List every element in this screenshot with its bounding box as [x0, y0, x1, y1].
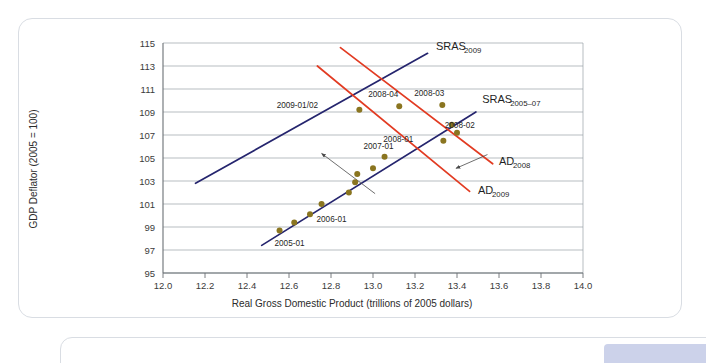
svg-text:12.6: 12.6 [280, 280, 299, 291]
curve-label-sras-2009: SRAS2009 [436, 40, 481, 55]
svg-text:111: 111 [141, 84, 155, 95]
data-point [396, 103, 402, 109]
svg-text:105: 105 [139, 153, 155, 164]
data-point [454, 130, 460, 136]
data-point-label: 2006-01 [317, 215, 347, 224]
data-point [352, 179, 358, 185]
data-point [356, 107, 362, 113]
curve-label-ad-2008: AD2008 [499, 155, 530, 170]
svg-text:12.0: 12.0 [154, 280, 173, 291]
data-point [382, 154, 388, 160]
curve-label-ad-2009: AD2009 [478, 184, 509, 199]
data-point [370, 165, 376, 171]
data-point [307, 211, 313, 217]
data-point [439, 102, 445, 108]
data-point-label: 2008-02 [445, 121, 475, 130]
svg-text:12.8: 12.8 [322, 280, 341, 291]
data-point [277, 227, 283, 233]
x-axis-tick-labels: 12.012.212.412.612.813.013.213.413.613.8… [154, 280, 593, 291]
data-point-label: 2009-01/02 [277, 101, 319, 110]
annotation-arrows [322, 153, 488, 193]
y-axis-title: GDP Deflator (2005 = 100) [28, 109, 39, 228]
figure-card: 959799101103105107109111113115 12.012.21… [18, 18, 682, 318]
curve-labels: SRAS2005–07SRAS2009AD2008AD2009 [436, 40, 541, 199]
svg-text:99: 99 [144, 222, 155, 233]
data-point-label: 2008-03 [414, 89, 444, 98]
arrow-to-ad-2009 [456, 155, 488, 169]
data-point [291, 219, 297, 225]
grid-lines [163, 43, 583, 273]
svg-text:2005–07: 2005–07 [510, 99, 540, 108]
svg-text:101: 101 [139, 199, 155, 210]
data-point [346, 190, 352, 196]
svg-text:113: 113 [140, 61, 155, 72]
y-axis-tick-labels: 959799101103105107109111113115 [139, 38, 155, 279]
data-point [354, 171, 360, 177]
svg-text:12.2: 12.2 [196, 280, 215, 291]
svg-text:13.2: 13.2 [406, 280, 425, 291]
curve-sras-2005-07 [262, 112, 476, 245]
svg-text:13.8: 13.8 [532, 280, 551, 291]
svg-text:95: 95 [144, 268, 155, 279]
svg-text:13.6: 13.6 [490, 280, 509, 291]
svg-text:12.4: 12.4 [238, 280, 257, 291]
x-axis-title: Real Gross Domestic Product (trillions o… [232, 298, 473, 309]
svg-text:13.4: 13.4 [448, 280, 467, 291]
data-point [440, 138, 446, 144]
svg-text:SRAS: SRAS [482, 93, 512, 105]
lower-right-panel [604, 344, 706, 363]
arrow-to-sras-2009 [322, 153, 376, 193]
svg-text:109: 109 [139, 107, 155, 118]
svg-text:107: 107 [139, 130, 155, 141]
data-point-label: 2005-01 [275, 239, 305, 248]
svg-text:115: 115 [140, 38, 155, 49]
chart-plot: 959799101103105107109111113115 12.012.21… [19, 19, 683, 319]
data-point [319, 201, 325, 207]
svg-text:2009: 2009 [464, 46, 481, 55]
x-axis-ticks [163, 273, 583, 278]
data-point-label: 2008-04 [368, 90, 398, 99]
svg-text:14.0: 14.0 [574, 280, 593, 291]
svg-text:2009: 2009 [492, 190, 509, 199]
data-point-label: 2008-01 [383, 135, 413, 144]
svg-text:SRAS: SRAS [436, 40, 466, 52]
svg-text:97: 97 [144, 245, 155, 256]
svg-text:13.0: 13.0 [364, 280, 383, 291]
svg-text:2008: 2008 [513, 161, 530, 170]
svg-text:103: 103 [139, 176, 155, 187]
curve-label-sras-2005-07: SRAS2005–07 [482, 93, 540, 108]
